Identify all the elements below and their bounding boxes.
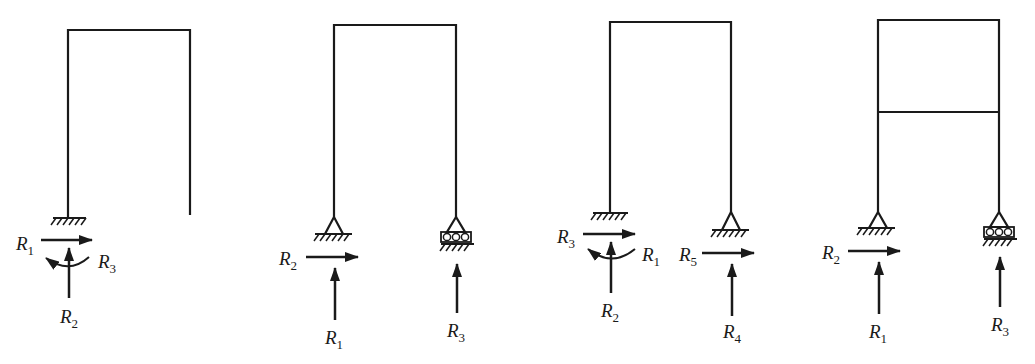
label-r1: R1 — [324, 327, 343, 352]
label-r1: R1 — [641, 244, 660, 269]
label-r3: R3 — [990, 314, 1009, 339]
frame-2-members — [334, 25, 456, 217]
roller-support-icon — [440, 217, 474, 251]
frame-1 — [41, 30, 190, 298]
frame-3 — [583, 22, 754, 316]
frame-2 — [306, 25, 474, 320]
frame-4-members — [878, 20, 999, 212]
label-r3: R3 — [446, 320, 465, 345]
label-r5: R5 — [678, 244, 697, 269]
frame-4 — [848, 20, 1017, 314]
pin-support-icon — [314, 217, 352, 241]
label-r2: R2 — [600, 300, 619, 325]
frames-figure: R1 R3 R2 R2 — [0, 0, 1035, 364]
pin-support-icon — [857, 212, 895, 235]
pin-support-icon — [711, 212, 749, 237]
label-r1: R1 — [15, 233, 34, 258]
label-r1: R1 — [868, 321, 887, 346]
frame-3-members — [610, 22, 731, 212]
reaction-r3-moment-icon — [46, 257, 89, 266]
label-r2: R2 — [821, 242, 840, 267]
fixed-support-hatch-icon — [51, 218, 86, 225]
label-r3: R3 — [97, 251, 116, 276]
label-r2: R2 — [278, 248, 297, 273]
label-r3: R3 — [556, 226, 575, 251]
roller-support-icon — [983, 212, 1017, 246]
fixed-support-hatch-icon — [591, 213, 628, 220]
frame-1-members — [68, 30, 190, 217]
label-r4: R4 — [722, 321, 742, 346]
label-r2: R2 — [59, 306, 78, 331]
